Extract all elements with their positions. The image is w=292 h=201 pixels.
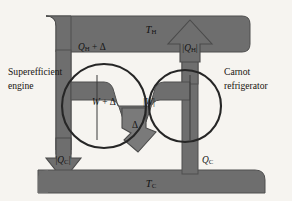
hot-out-right-label: |QH| bbox=[182, 43, 198, 53]
cold-in-right-label: QC bbox=[202, 155, 214, 165]
cold-out-left-label: |QC| bbox=[55, 155, 70, 165]
work-left-label: W + Δ bbox=[92, 97, 116, 107]
hot-in-left-label: QH + Δ bbox=[78, 42, 106, 52]
left-device-label-line2: engine bbox=[8, 80, 34, 91]
work-right-label: |W| bbox=[143, 97, 155, 107]
thermodynamics-diagram: TH TC QH + Δ |QH| |QC| QC W + Δ |W| bbox=[0, 0, 292, 201]
right-device-label-line1: Carnot bbox=[224, 66, 250, 77]
net-work-label: Δ bbox=[132, 120, 138, 130]
right-device-label-line2: refrigerator bbox=[224, 80, 268, 91]
left-device-label-line1: Superefficient bbox=[8, 66, 63, 77]
